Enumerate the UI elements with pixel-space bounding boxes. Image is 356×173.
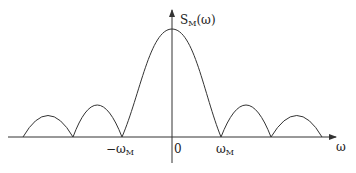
side-lobe-left-2 <box>23 116 73 138</box>
x-axis-label: ω <box>336 140 346 154</box>
side-lobe-right-1 <box>221 105 271 137</box>
tick-neg-omega-m: −ωM <box>106 142 134 157</box>
side-lobe-right-2 <box>271 116 322 138</box>
y-axis-label: SM(ω) <box>180 13 216 28</box>
diagram-canvas: SM(ω) −ωM 0 ωM ω <box>0 0 356 173</box>
tick-zero: 0 <box>174 142 182 156</box>
spectrum-diagram: SM(ω) −ωM 0 ωM ω <box>0 0 356 173</box>
side-lobe-left-1 <box>73 105 122 137</box>
tick-pos-omega-m: ωM <box>216 142 234 157</box>
